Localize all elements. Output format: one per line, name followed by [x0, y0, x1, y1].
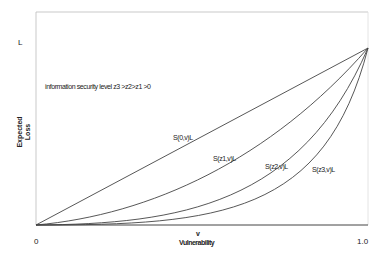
label-curve-s3: S(z3,v)L	[312, 166, 335, 173]
y-axis-label-line2: Loss	[24, 112, 32, 152]
curve-s0	[36, 48, 368, 225]
x-tick-1: 1.0	[357, 237, 368, 246]
x-tick-0: 0	[34, 237, 38, 246]
chart-canvas	[0, 0, 386, 263]
x-symbol-v: v	[196, 230, 199, 237]
y-tick-L: L	[18, 38, 22, 47]
label-curve-s0: S(0,v)L	[173, 134, 193, 141]
annotation-security-level: information security level z3 >z2>z1 >0	[45, 83, 151, 90]
y-axis-label-line1: Expected	[16, 112, 24, 152]
x-axis-label: Vulnerability	[179, 239, 214, 246]
y-axis-label: Expected Loss	[16, 112, 32, 152]
label-curve-s1: S(z1,v)L	[213, 155, 236, 162]
label-curve-s2: S(z2,v)L	[265, 163, 288, 170]
